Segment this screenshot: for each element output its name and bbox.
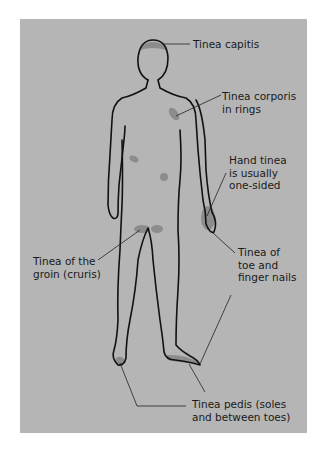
- leader-lines: [98, 44, 235, 406]
- label-line: Tinea corporis: [222, 90, 296, 103]
- label-line: groin (cruris): [33, 268, 101, 281]
- label-tinea-groin: Tinea of the groin (cruris): [33, 255, 101, 280]
- label-line: toe and: [238, 259, 296, 272]
- lesion-hand: [201, 206, 215, 230]
- label-tinea-capitis: Tinea capitis: [193, 38, 259, 51]
- label-line: one-sided: [229, 179, 287, 192]
- lesion-groin-right: [151, 225, 163, 233]
- label-tinea-corporis: Tinea corporis in rings: [222, 90, 296, 115]
- body-outline: [108, 40, 216, 365]
- label-line: is usually: [229, 167, 287, 180]
- label-line: finger nails: [238, 271, 296, 284]
- lesion-arm: [128, 154, 140, 164]
- label-line: Tinea of: [238, 246, 296, 259]
- label-line: Tinea of the: [33, 255, 101, 268]
- body-diagram: [0, 0, 321, 449]
- label-line: and between toes): [192, 411, 290, 424]
- label-line: Tinea capitis: [193, 38, 259, 51]
- lesion-chest: [167, 106, 182, 122]
- label-tinea-nails: Tinea of toe and finger nails: [238, 246, 296, 284]
- lesion-abdomen: [160, 173, 168, 181]
- label-tinea-pedis: Tinea pedis (soles and between toes): [192, 398, 290, 423]
- label-line: Tinea pedis (soles: [192, 398, 290, 411]
- label-hand-tinea: Hand tinea is usually one-sided: [229, 154, 287, 192]
- label-line: in rings: [222, 103, 296, 116]
- label-line: Hand tinea: [229, 154, 287, 167]
